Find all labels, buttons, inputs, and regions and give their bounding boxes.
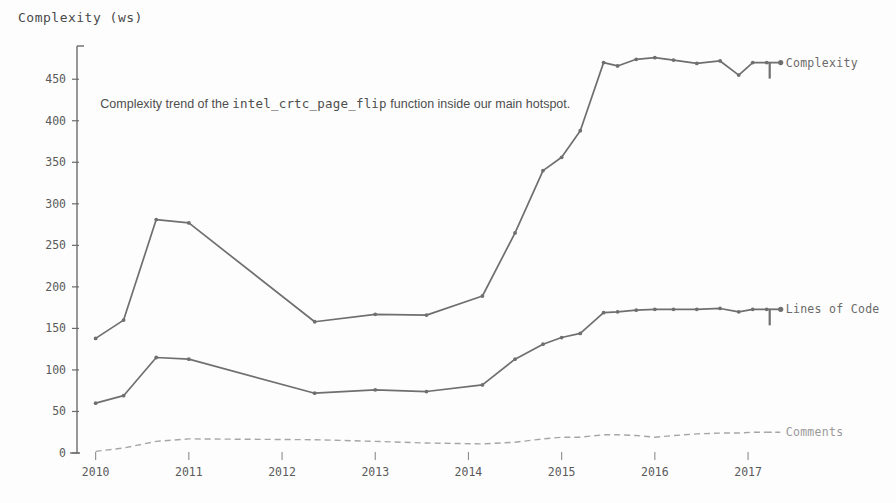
series-data-point — [737, 310, 741, 314]
series-data-point — [634, 308, 638, 312]
series-data-point — [653, 307, 657, 311]
series-data-point — [541, 169, 545, 173]
series-data-point — [481, 294, 485, 298]
series-data-point — [634, 57, 638, 61]
x-tick-label: 2010 — [82, 465, 110, 479]
annotation-text-run: Complexity trend of the — [100, 97, 232, 111]
series-data-point — [672, 307, 676, 311]
x-tick-label: 2011 — [175, 465, 203, 479]
series-data-point — [616, 310, 620, 314]
series-data-point — [578, 331, 582, 335]
x-tick-label: 2012 — [268, 465, 296, 479]
series-data-point — [718, 307, 722, 311]
series-comments — [96, 432, 767, 451]
series-data-point — [751, 307, 755, 311]
x-axis: 20102011201220132014201520162017 — [70, 452, 762, 479]
y-tick-label: 200 — [45, 280, 66, 294]
legend-label: Comments — [786, 425, 844, 439]
series-data-point — [602, 61, 606, 65]
series-data-point — [560, 336, 564, 340]
y-tick-label: 300 — [45, 197, 66, 211]
series-data-point — [718, 59, 722, 63]
legend-item-lines-of-code: Lines of Code — [767, 302, 880, 325]
x-tick-label: 2015 — [548, 465, 576, 479]
y-tick-label: 100 — [45, 363, 66, 377]
series-lines-of-code — [94, 307, 769, 405]
series-data-point — [313, 391, 317, 395]
annotation-code-token: intel_crtc_page_flip — [232, 96, 387, 111]
series-data-point — [425, 390, 429, 394]
series-data-point — [425, 313, 429, 317]
x-tick-label: 2016 — [641, 465, 669, 479]
legend-item-comments: Comments — [767, 425, 844, 439]
series-data-point — [122, 318, 126, 322]
chart-plot-area: Complexity (ws) 050100150200250300350400… — [0, 0, 896, 503]
series-data-point — [653, 56, 657, 60]
y-tick-label: 350 — [45, 155, 66, 169]
series-data-point — [751, 61, 755, 65]
legend-marker — [778, 307, 783, 312]
series-data-point — [513, 231, 517, 235]
series-path — [96, 308, 767, 403]
series-data-point — [122, 394, 126, 398]
legend-label: Complexity — [786, 56, 858, 70]
series-data-point — [154, 218, 158, 222]
x-tick-group: 20102011201220132014201520162017 — [82, 452, 762, 479]
series-group — [94, 56, 769, 452]
annotation-group: Complexity trend of the intel_crtc_page_… — [100, 96, 570, 111]
y-tick-label: 400 — [45, 114, 66, 128]
y-tick-label: 150 — [45, 321, 66, 335]
y-tick-label: 250 — [45, 238, 66, 252]
x-tick-label: 2014 — [455, 465, 483, 479]
series-data-point — [616, 64, 620, 68]
series-data-point — [373, 312, 377, 316]
legend-item-complexity: Complexity — [767, 56, 858, 79]
series-data-point — [541, 342, 545, 346]
x-tick-label: 2013 — [361, 465, 389, 479]
series-data-point — [94, 401, 98, 405]
series-data-point — [578, 129, 582, 133]
y-axis: 050100150200250300350400450 — [45, 46, 84, 460]
y-tick-label: 450 — [45, 72, 66, 86]
series-data-point — [373, 388, 377, 392]
annotation-text-run: function inside our main hotspot. — [387, 97, 570, 111]
series-data-point — [695, 307, 699, 311]
y-tick-group: 050100150200250300350400450 — [45, 72, 79, 460]
series-data-point — [695, 62, 699, 66]
series-data-point — [313, 320, 317, 324]
y-tick-label: 0 — [59, 446, 66, 460]
series-path — [96, 432, 767, 451]
legend-marker — [778, 60, 783, 65]
series-data-point — [513, 357, 517, 361]
x-tick-label: 2017 — [734, 465, 762, 479]
complexity-trend-chart: Complexity (ws) 050100150200250300350400… — [0, 0, 896, 503]
series-data-point — [94, 336, 98, 340]
chart-annotation: Complexity trend of the intel_crtc_page_… — [100, 96, 570, 111]
series-data-point — [737, 73, 741, 77]
series-data-point — [154, 356, 158, 360]
series-data-point — [560, 155, 564, 159]
legend-label: Lines of Code — [786, 302, 880, 316]
series-data-point — [481, 383, 485, 387]
series-data-point — [602, 311, 606, 315]
series-data-point — [672, 58, 676, 62]
chart-legend: ComplexityLines of CodeComments — [767, 56, 880, 440]
series-data-point — [187, 357, 191, 361]
series-data-point — [187, 221, 191, 225]
y-tick-label: 50 — [52, 404, 66, 418]
y-axis-title: Complexity (ws) — [18, 10, 143, 25]
